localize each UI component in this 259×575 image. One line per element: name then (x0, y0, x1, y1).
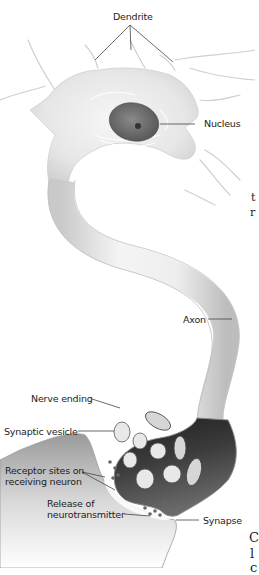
edge-fragment-2: r (250, 205, 255, 220)
label-axon: Axon (183, 314, 206, 325)
label-receptor-sites: Receptor sites on receiving neuron (5, 465, 84, 487)
label-nerve-ending: Nerve ending (31, 393, 93, 404)
label-synapse: Synapse (203, 515, 242, 526)
label-receptor-sites-line2: receiving neuron (5, 476, 84, 487)
label-dendrite: Dendrite (113, 11, 153, 22)
label-receptor-sites-line1: Receptor sites on (5, 465, 84, 476)
edge-fragment-4: l (250, 546, 254, 561)
label-release: Release of neurotransmitter (47, 498, 125, 520)
label-nucleus: Nucleus (204, 118, 240, 129)
nucleolus (135, 123, 141, 129)
label-release-line1: Release of (47, 498, 125, 509)
edge-fragment-5: c (250, 560, 257, 575)
axon-shape (61, 180, 227, 420)
label-synaptic-vesicle: Synaptic vesicle (4, 426, 78, 437)
label-release-line2: neurotransmitter (47, 509, 125, 520)
edge-fragment-3: C (249, 530, 259, 545)
edge-fragment-1: t (251, 190, 255, 205)
